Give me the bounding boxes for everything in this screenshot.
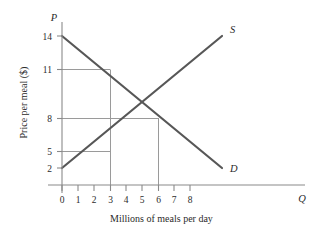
chart-canvas: 14 11 8 5 2 0 1 2 3 4 5 6 7 8 P Q S D [0,0,323,236]
x-tick-label-6: 6 [156,195,161,205]
y-tick-label-5: 5 [47,147,52,157]
x-tick-label-5: 5 [140,195,145,205]
y-axis-symbol-p: P [50,12,58,23]
y-tick-label-2: 2 [47,164,52,174]
supply-curve-label: S [230,24,236,35]
x-axis-title: Millions of meals per day [0,213,323,224]
x-tick-label-4: 4 [124,195,129,205]
supply-demand-chart: 14 11 8 5 2 0 1 2 3 4 5 6 7 8 P Q S D Pr… [0,0,323,236]
y-axis-title: Price per meal ($) [18,38,29,168]
x-tick-label-1: 1 [76,195,81,205]
x-tick-label-2: 2 [92,195,97,205]
x-tick-label-8: 8 [188,195,193,205]
y-tick-label-11: 11 [43,65,52,75]
x-tick-label-0: 0 [60,195,65,205]
y-tick-label-8: 8 [47,114,52,124]
x-axis-symbol-q: Q [298,193,306,204]
x-tick-label-3: 3 [108,195,113,205]
y-tick-label-14: 14 [43,32,53,42]
demand-curve-label: D [229,163,238,174]
x-tick-label-7: 7 [172,195,177,205]
